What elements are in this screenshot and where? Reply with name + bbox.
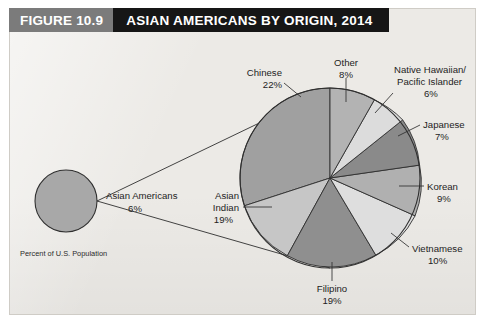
figure-number-label: FIGURE 10.9 bbox=[9, 8, 113, 32]
label-other-value: 8% bbox=[339, 69, 353, 80]
label-asian-indian-line2: Indian bbox=[213, 202, 239, 213]
label-chinese-name: Chinese bbox=[247, 67, 282, 78]
label-chinese-value: 22% bbox=[263, 79, 283, 90]
label-asian-indian-line1: Asian bbox=[215, 190, 239, 201]
label-filipino-value: 19% bbox=[322, 295, 342, 306]
label-filipino-name: Filipino bbox=[317, 283, 347, 294]
label-native-hawaiian-line2: Pacific Islander bbox=[397, 76, 463, 87]
label-asian-indian-value: 19% bbox=[214, 214, 234, 225]
figure-caption: Percent of U.S. Population bbox=[20, 249, 107, 258]
label-korean-name: Korean bbox=[427, 181, 458, 192]
leader-line-chinese bbox=[284, 83, 301, 97]
inset-callout-labels: Asian Americans 6% bbox=[106, 190, 178, 214]
label-native-hawaiian-line1: Native Hawaiian/ bbox=[394, 64, 466, 75]
callout-value: 6% bbox=[128, 203, 142, 214]
figure-title: ASIAN AMERICANS BY ORIGIN, 2014 bbox=[113, 8, 388, 32]
label-japanese-name: Japanese bbox=[423, 119, 465, 130]
figure-root: FIGURE 10.9 ASIAN AMERICANS BY ORIGIN, 2… bbox=[0, 0, 485, 331]
label-vietnamese-value: 10% bbox=[428, 255, 448, 266]
figure-title-bar: FIGURE 10.9 ASIAN AMERICANS BY ORIGIN, 2… bbox=[9, 8, 389, 32]
label-other-name: Other bbox=[334, 57, 359, 68]
callout-label: Asian Americans bbox=[106, 190, 178, 201]
pie-chart: Chinese 22% Other 8% Native Hawaiian/ Pa… bbox=[0, 0, 485, 331]
label-native-hawaiian-value: 6% bbox=[424, 88, 438, 99]
inset-population-circle bbox=[35, 170, 97, 232]
label-japanese-value: 7% bbox=[435, 131, 449, 142]
label-korean-value: 9% bbox=[437, 193, 451, 204]
label-vietnamese-name: Vietnamese bbox=[412, 243, 463, 254]
